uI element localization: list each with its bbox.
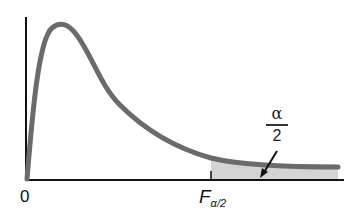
fraction-bar [266,124,288,126]
origin-label: 0 [20,187,29,207]
critical-value-main: F [199,186,211,207]
density-curve [27,24,338,179]
f-distribution-diagram [0,0,356,215]
critical-value-subscript: α/2 [211,197,226,209]
critical-value-label: Fα/2 [199,186,226,209]
alpha-half-annotation: α 2 [266,106,288,144]
alpha-numerator: α [266,106,288,122]
alpha-denominator: 2 [266,128,288,144]
